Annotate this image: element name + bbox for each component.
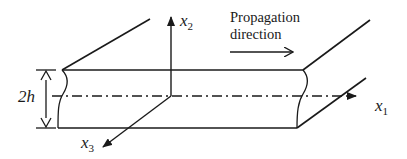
propagation-label-line1: Propagation — [230, 9, 300, 26]
x2-label-subscript: 2 — [188, 20, 194, 32]
x2-axis-label: x2 — [180, 12, 193, 32]
plate-top-left-receding-edge — [62, 19, 150, 70]
thickness-arrowhead-bottom — [41, 118, 51, 127]
x3-axis-label: x3 — [81, 134, 94, 154]
plate-right-break-line — [297, 70, 308, 128]
x1-label-subscript: 1 — [383, 105, 389, 117]
plate-diagram — [0, 0, 407, 159]
thickness-arrowhead-top — [41, 71, 51, 80]
x1-label-base: x — [375, 96, 383, 115]
x2-label-base: x — [180, 11, 188, 30]
x3-label-subscript: 3 — [89, 142, 95, 154]
plate-left-break-line — [58, 70, 67, 128]
x1-axis-label: x1 — [375, 97, 388, 117]
thickness-label: 2h — [18, 88, 35, 105]
plate-top-right-receding-edge — [303, 20, 370, 70]
x3-label-base: x — [81, 133, 89, 152]
x3-axis — [103, 96, 171, 147]
propagation-label-line2: direction — [230, 26, 300, 43]
propagation-direction-label: Propagation direction — [230, 9, 300, 43]
